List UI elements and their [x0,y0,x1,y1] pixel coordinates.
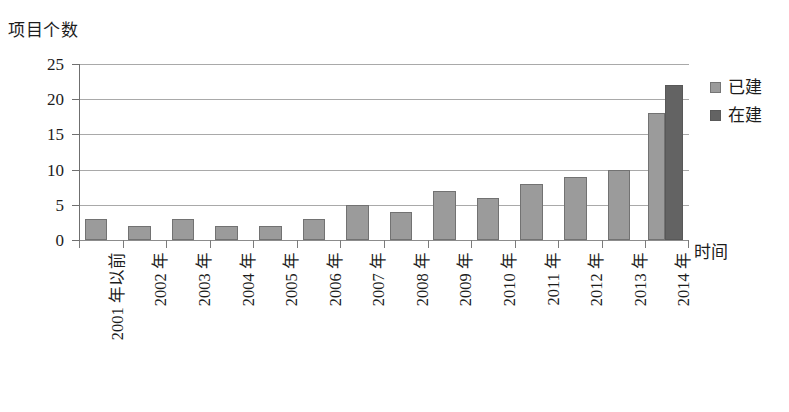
x-axis-tick-mark [253,240,254,248]
x-axis-tick-mark [515,240,516,248]
x-axis-tick-label-text: 2011 年 [546,252,563,306]
legend-item[interactable]: 已建 [710,78,786,97]
x-axis-tick-label-text: 2006 年 [328,252,345,306]
y-axis-tick-label: 10 [18,162,64,179]
x-axis-tick-label-text: 2007 年 [371,252,388,306]
x-axis-tick-labels: 2001 年以前2002 年2003 年2004 年2005 年2006 年20… [79,252,689,402]
x-axis-tick-marks [79,240,689,249]
x-axis-tick-label-text: 2008 年 [415,252,432,306]
x-axis-tick-label: 2010 年 [500,252,517,306]
bar-group[interactable] [79,64,123,240]
legend-swatch-icon [710,110,721,121]
bar-group[interactable] [210,64,254,240]
x-axis-tick-label: 2002 年 [151,252,168,306]
legend-swatch-icon [710,82,721,93]
bar-built[interactable] [259,226,282,240]
bar-built[interactable] [85,219,108,240]
bar-built[interactable] [520,184,543,240]
x-axis-tick-label: 2013 年 [631,252,648,306]
bar-built[interactable] [477,198,500,240]
bar-built[interactable] [346,205,369,240]
x-axis-tick-label-text: 2014 年 [676,252,693,306]
x-axis-tick-label: 2006 年 [326,252,343,306]
x-axis-tick-mark [340,240,341,248]
y-axis-tick-label: 20 [18,91,64,108]
x-axis-tick-label: 2003 年 [195,252,212,306]
x-axis-tick-mark [602,240,603,248]
y-axis-tick-label: 0 [18,232,64,249]
x-axis-tick-label-text: 2013 年 [633,252,650,306]
bar-built[interactable] [128,226,151,240]
x-axis-tick-label-text: 2003 年 [197,252,214,306]
y-axis-tick-mark [72,170,80,171]
x-axis-tick-label: 2011 年 [544,252,561,306]
x-axis-tick-label-text: 2001 年以前 [110,252,127,340]
bar-group[interactable] [123,64,167,240]
bar-group[interactable] [602,64,646,240]
x-axis-tick-label: 2005 年 [282,252,299,306]
bar-group[interactable] [166,64,210,240]
x-axis-tick-mark [471,240,472,248]
chart-legend: 已建在建 [710,78,786,134]
bar-built[interactable] [648,113,665,240]
y-axis-tick-mark [72,205,80,206]
bar-group[interactable] [515,64,559,240]
bar-group[interactable] [428,64,472,240]
x-axis-tick-label-text: 2010 年 [502,252,519,306]
x-axis-tick-label: 2007 年 [369,252,386,306]
bar-group[interactable] [297,64,341,240]
bar-chart-figure: 项目个数 2001 年以前2002 年2003 年2004 年2005 年200… [0,0,789,412]
x-axis-tick-mark [384,240,385,248]
bar-built[interactable] [172,219,195,240]
x-axis-tick-label: 2009 年 [456,252,473,306]
x-axis-tick-mark [297,240,298,248]
x-axis-tick-label: 2008 年 [413,252,430,306]
x-axis-tick-label-text: 2002 年 [153,252,170,306]
x-axis-tick-label: 2001 年以前 [108,252,125,340]
x-axis-tick-label-text: 2012 年 [589,252,606,306]
bar-group[interactable] [645,64,689,240]
bar-under-construction[interactable] [665,85,682,240]
bar-built[interactable] [303,219,326,240]
legend-label: 在建 [728,107,762,124]
legend-label: 已建 [728,79,762,96]
x-axis-tick-label-text: 2005 年 [284,252,301,306]
y-axis-tick-label: 15 [18,126,64,143]
x-axis-tick-mark [558,240,559,248]
x-axis-tick-label: 2014 年 [674,252,691,306]
x-axis-tick-label: 2004 年 [239,252,256,306]
bar-built[interactable] [215,226,238,240]
bar-group[interactable] [340,64,384,240]
bar-group[interactable] [384,64,428,240]
x-axis-tick-mark [210,240,211,248]
y-axis-title: 项目个数 [8,16,78,41]
x-axis-tick-label: 2012 年 [587,252,604,306]
bar-built[interactable] [433,191,456,240]
bar-group[interactable] [558,64,602,240]
x-axis-tick-label-text: 2004 年 [241,252,258,306]
y-axis-tick-mark [72,134,80,135]
y-axis-tick-mark [72,240,80,241]
x-axis-tick-mark [123,240,124,248]
bar-built[interactable] [390,212,413,240]
y-axis-tick-label: 25 [18,56,64,73]
bars-layer [79,64,689,240]
bar-group[interactable] [253,64,297,240]
y-axis-tick-mark [72,99,80,100]
bar-built[interactable] [564,177,587,240]
bar-group[interactable] [471,64,515,240]
x-axis-tick-mark [428,240,429,248]
x-axis-tick-mark [645,240,646,248]
x-axis-tick-label-text: 2009 年 [458,252,475,306]
y-axis-tick-mark [72,64,80,65]
y-axis-tick-label: 5 [18,197,64,214]
bar-built[interactable] [608,170,631,240]
x-axis-tick-mark [688,240,689,248]
x-axis-tick-mark [166,240,167,248]
legend-item[interactable]: 在建 [710,106,786,125]
x-axis-title: 时间 [694,238,728,263]
x-axis-tick-mark [79,240,80,248]
